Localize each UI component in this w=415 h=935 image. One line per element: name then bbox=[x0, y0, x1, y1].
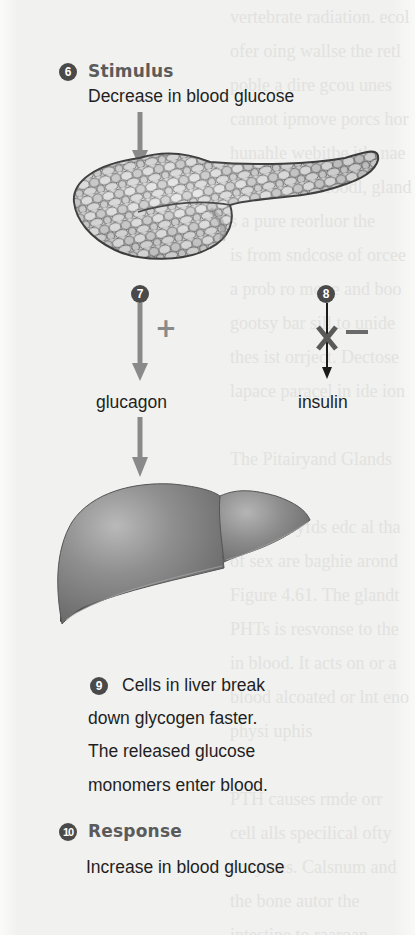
insulin-label: insulin bbox=[298, 392, 348, 413]
step-10-badge: 10 bbox=[59, 823, 77, 841]
glucagon-label: glucagon bbox=[96, 392, 167, 413]
pancreas-icon bbox=[70, 150, 390, 280]
insulin-inhibited-arrow-icon bbox=[312, 303, 342, 385]
step-8-badge: 8 bbox=[317, 285, 335, 303]
response-description: Increase in blood glucose bbox=[86, 857, 284, 878]
step-9-badge: 9 bbox=[90, 677, 108, 695]
stimulatory-plus-sign: + bbox=[155, 318, 175, 338]
response-heading: Response bbox=[88, 821, 182, 841]
figure-page: vertebrate radiation. ecol ofer oing wal… bbox=[0, 0, 415, 935]
liver-icon bbox=[54, 482, 284, 632]
liver-action-line-2: down glycogen faster. bbox=[88, 702, 257, 736]
stimulus-description: Decrease in blood glucose bbox=[88, 86, 294, 107]
step-7-badge: 7 bbox=[131, 285, 149, 303]
glucagon-release-arrow-icon bbox=[130, 303, 150, 385]
stimulus-heading: Stimulus bbox=[88, 61, 174, 81]
liver-action-line-1: Cells in liver break bbox=[122, 669, 265, 703]
liver-action-line-3: The released glucose bbox=[88, 735, 255, 769]
liver-action-line-4: monomers enter blood. bbox=[88, 769, 268, 803]
inhibitory-minus-sign bbox=[346, 330, 368, 334]
step-6-badge: 6 bbox=[59, 63, 77, 81]
glucagon-to-liver-arrow-icon bbox=[130, 417, 150, 481]
